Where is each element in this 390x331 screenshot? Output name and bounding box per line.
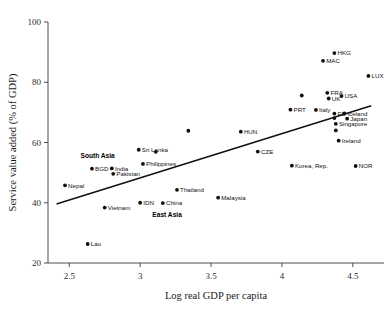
data-point[interactable]: [332, 116, 336, 120]
x-axis-title: Log real GDP per capita: [165, 290, 268, 301]
group-annotation-label: South Asia: [81, 152, 116, 159]
data-point[interactable]: [332, 112, 336, 116]
data-point[interactable]: [86, 242, 90, 246]
data-point-label: USA: [345, 92, 359, 99]
data-point[interactable]: [103, 206, 107, 210]
x-tick-label: 2.5: [64, 271, 76, 281]
x-tick-label: 4.5: [347, 271, 359, 281]
data-point[interactable]: [154, 150, 158, 154]
data-point-label: Thailand: [180, 186, 204, 193]
data-point-label: Philippines: [146, 160, 176, 167]
data-point[interactable]: [175, 188, 179, 192]
data-point-label: Malaysia: [221, 194, 246, 201]
data-point[interactable]: [289, 108, 293, 112]
data-point-label: IDN: [143, 199, 154, 206]
x-tick-label: 3.5: [205, 271, 217, 281]
data-point[interactable]: [138, 201, 142, 205]
data-point[interactable]: [340, 94, 344, 98]
data-point-label: HUN: [244, 128, 257, 135]
data-point[interactable]: [110, 167, 114, 171]
data-point[interactable]: [161, 201, 165, 205]
data-point-label: CZE: [261, 148, 273, 155]
data-point[interactable]: [354, 164, 358, 168]
data-point-label: China: [166, 199, 183, 206]
y-tick-label: 20: [32, 258, 42, 268]
data-point-label: Vietnam: [108, 204, 131, 211]
data-point[interactable]: [63, 183, 67, 187]
data-point[interactable]: [345, 117, 349, 121]
data-point-label: Lao: [91, 240, 102, 247]
data-point[interactable]: [327, 97, 331, 101]
data-point-label: HKG: [337, 49, 351, 56]
y-axis-title: Service value added (% of GDP): [7, 73, 19, 211]
y-tick-label: 100: [28, 17, 42, 27]
x-tick-label: 4: [280, 271, 285, 281]
x-tick-label: 3: [138, 271, 143, 281]
data-point[interactable]: [290, 164, 294, 168]
data-point-label: Ireland: [342, 137, 361, 144]
y-tick-label: 60: [32, 138, 42, 148]
data-point[interactable]: [141, 162, 145, 166]
data-point[interactable]: [239, 130, 243, 134]
y-tick-label: 80: [32, 77, 42, 87]
data-point[interactable]: [332, 51, 336, 55]
data-point[interactable]: [314, 108, 318, 112]
data-point[interactable]: [337, 139, 341, 143]
data-point-label: PRT: [294, 106, 306, 113]
chart-canvas: 204060801002.533.544.5Log real GDP per c…: [0, 0, 390, 331]
data-point[interactable]: [137, 148, 141, 152]
data-point-label: Italy: [319, 106, 331, 113]
data-point-label: Japan: [350, 115, 367, 122]
data-point[interactable]: [334, 129, 338, 133]
group-annotation-label: East Asia: [152, 211, 182, 218]
data-point[interactable]: [256, 150, 260, 154]
data-point[interactable]: [111, 172, 115, 176]
data-point[interactable]: [300, 94, 304, 98]
data-point[interactable]: [216, 196, 220, 200]
data-point[interactable]: [186, 129, 190, 133]
data-point[interactable]: [90, 167, 94, 171]
data-point-label: Pakistan: [116, 170, 140, 177]
data-point[interactable]: [342, 111, 346, 115]
data-point[interactable]: [334, 122, 338, 126]
data-point[interactable]: [367, 74, 371, 78]
data-point-label: MAC: [326, 57, 340, 64]
scatter-chart-figure: 204060801002.533.544.5Log real GDP per c…: [0, 0, 390, 331]
data-point[interactable]: [321, 59, 325, 63]
data-point[interactable]: [325, 91, 329, 95]
data-point-label: Korea, Rep.: [295, 162, 328, 169]
data-point-label: LUX: [372, 72, 384, 79]
data-point-label: NOR: [359, 162, 373, 169]
data-point-label: BGD: [95, 165, 109, 172]
y-tick-label: 40: [32, 198, 42, 208]
data-point-label: Nepal: [68, 182, 84, 189]
